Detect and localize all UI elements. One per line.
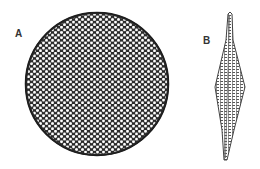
diatom-illustration	[0, 0, 260, 169]
panel-b-pennate-valve	[215, 12, 245, 160]
panel-a-centric-valve	[25, 12, 169, 156]
